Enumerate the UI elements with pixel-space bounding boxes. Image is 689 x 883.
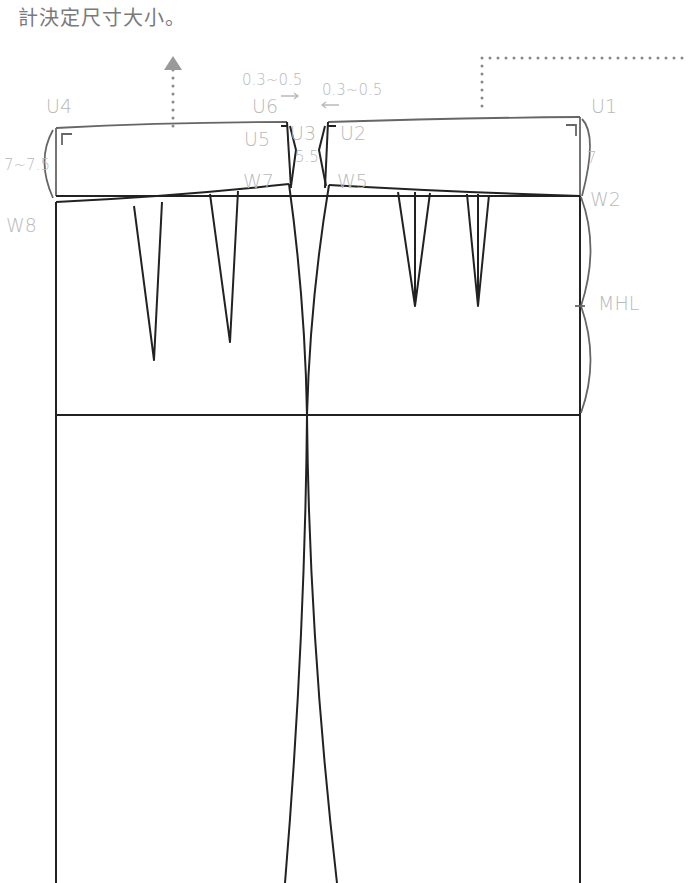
label-center-height: 5.5 xyxy=(295,148,319,166)
label-u1: U1 xyxy=(591,95,617,117)
right-arrow-icon xyxy=(281,93,298,99)
label-u4: U4 xyxy=(46,95,72,117)
label-w5: W5 xyxy=(337,170,368,192)
labels: U4 U6 U5 U3 U2 U1 W8 W7 W5 W2 MHL 7~7.5 … xyxy=(4,71,639,314)
label-offset-right: 0.3~0.5 xyxy=(322,81,382,99)
dotted-guides xyxy=(164,56,689,132)
pants-pattern-diagram: U4 U6 U5 U3 U2 U1 W8 W7 W5 W2 MHL 7~7.5 … xyxy=(0,0,689,883)
mhl-bracket xyxy=(575,197,591,413)
label-u2: U2 xyxy=(340,122,366,144)
corner-mark-icon xyxy=(62,134,72,145)
waist-lines xyxy=(56,184,580,202)
label-mhl: MHL xyxy=(598,292,639,314)
left-arrow-icon xyxy=(322,102,339,108)
back-dart-1 xyxy=(134,202,162,360)
label-u5: U5 xyxy=(244,128,270,150)
label-u3: U3 xyxy=(290,122,316,144)
label-offset-left: 0.3~0.5 xyxy=(242,71,302,89)
front-center-seam xyxy=(307,185,337,883)
label-u6: U6 xyxy=(252,95,278,117)
label-w8: W8 xyxy=(6,214,37,236)
back-dart-2 xyxy=(210,191,238,342)
label-w2: W2 xyxy=(590,188,621,210)
label-right-height: 7 xyxy=(587,149,597,167)
up-arrow-icon xyxy=(164,56,182,70)
pattern-frame xyxy=(56,196,580,883)
label-left-height: 7~7.5 xyxy=(4,156,50,174)
corner-mark-icon xyxy=(566,125,576,136)
back-center-seam xyxy=(285,184,307,883)
right-dotted-guide xyxy=(482,58,689,106)
label-w7: W7 xyxy=(243,170,274,192)
center-seams xyxy=(285,184,337,883)
